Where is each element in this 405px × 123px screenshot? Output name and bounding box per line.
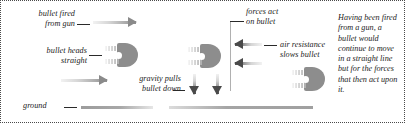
label-bullet-heads-straight: bullet heads straight <box>23 46 87 65</box>
bullet-icon-3 <box>292 67 326 91</box>
bullet-notch <box>115 52 122 59</box>
motion-blur-bottom <box>292 83 306 88</box>
caption-text: Having been fired from a gun, a bullet w… <box>338 13 398 95</box>
arrow-down-icon-gravity-1 <box>189 74 200 94</box>
physics-diagram-panel: bullet fired from gun bullet heads strai… <box>0 0 405 123</box>
forces-bracket <box>230 21 231 91</box>
leader-line-bullet-heads <box>89 55 102 56</box>
motion-blur-bottom <box>188 60 202 65</box>
arrow-left-icon-air-resistance-2 <box>235 58 262 69</box>
leader-line-forces-act <box>230 21 244 22</box>
bullet-notch <box>302 76 309 83</box>
motion-blur-bottom <box>105 59 119 64</box>
label-ground: ground <box>23 101 63 111</box>
arrow-head <box>234 58 243 68</box>
arrow-head <box>128 17 137 27</box>
arrow-right-icon-motion-1 <box>93 17 136 28</box>
arrow-head <box>99 75 108 85</box>
label-gravity-pulls-bullet-down: gravity pulls bullet down <box>117 74 181 93</box>
leader-line-ground <box>64 107 77 108</box>
leader-line-air-resistance <box>264 45 277 46</box>
label-forces-act-on-bullet: forces act on bullet <box>246 7 306 26</box>
arrow-head <box>189 86 199 95</box>
arrow-down-icon-gravity-2 <box>212 74 223 94</box>
label-air-resistance-slows-bullet: air resistance slows bullet <box>280 40 346 59</box>
bullet-icon-1 <box>105 43 139 67</box>
ground-line-icon-left <box>81 106 153 109</box>
bullet-icon-2 <box>188 44 222 68</box>
arrow-head <box>234 39 243 49</box>
arrow-left-icon-air-resistance-1 <box>235 39 262 50</box>
arrow-head <box>212 86 222 95</box>
arrow-right-icon-motion-2 <box>61 75 107 86</box>
leader-line-gravity <box>173 90 185 91</box>
leader-line-bullet-fired <box>77 24 90 25</box>
bullet-notch <box>198 53 205 60</box>
ground-line-icon-right <box>169 106 313 109</box>
label-bullet-fired-from-gun: bullet fired from gun <box>11 9 75 28</box>
